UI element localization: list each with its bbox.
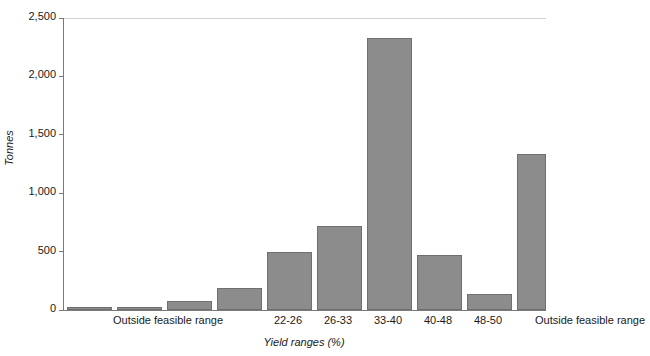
bar [317,226,362,310]
bar [417,255,462,310]
bar [517,154,546,310]
y-tick-label: 500 [38,244,56,256]
y-tick-label: 1,000 [28,185,56,197]
x-axis-tick-labels: Outside feasible range22-2626-3333-4040-… [63,314,545,332]
y-tick-label: 2,000 [28,68,56,80]
bar [67,307,112,310]
bar-series [64,18,546,310]
bar [467,294,512,310]
bar [367,38,412,310]
bar [217,288,262,310]
y-tick-label: 2,500 [28,10,56,22]
bar [117,307,162,310]
y-tick-label: 0 [50,302,56,314]
y-axis-title: Tonnes [3,113,15,183]
plot-area: 05001,0001,5002,0002,500 [63,18,546,311]
x-tick-label: Outside feasible range [490,314,650,326]
bar [167,301,212,310]
y-tick-label: 1,500 [28,127,56,139]
bar [267,252,312,310]
x-axis-title: Yield ranges (%) [63,336,545,348]
